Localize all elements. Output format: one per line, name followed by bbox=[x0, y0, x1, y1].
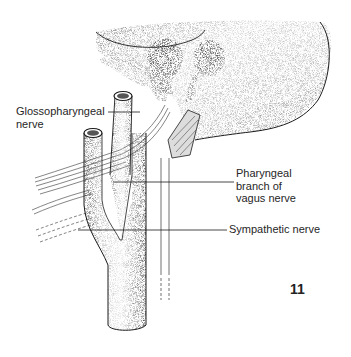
vagus-sympathetic-lines bbox=[161, 158, 169, 300]
label-line: vagus nerve bbox=[236, 192, 296, 205]
label-pharyngeal-branch-of-vagus: Pharyngeal branch of vagus nerve bbox=[236, 167, 296, 205]
label-glossopharyngeal-nerve: Glossopharyngeal nerve bbox=[16, 105, 105, 130]
muscle-bundle bbox=[168, 110, 200, 158]
label-line: nerve bbox=[16, 118, 105, 131]
label-line: Glossopharyngeal bbox=[16, 105, 105, 118]
label-line: Sympathetic nerve bbox=[229, 223, 320, 236]
label-line: branch of bbox=[236, 180, 296, 193]
figure-number: 11 bbox=[290, 281, 305, 297]
label-line: Pharyngeal bbox=[236, 167, 296, 180]
label-sympathetic-nerve: Sympathetic nerve bbox=[229, 223, 320, 236]
anatomy-illustration bbox=[0, 0, 351, 357]
